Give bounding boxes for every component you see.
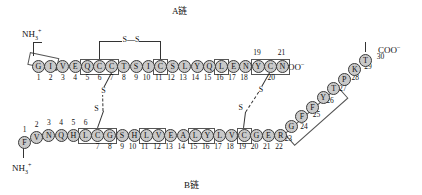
number-b1: 1 — [18, 125, 31, 134]
residue-b25: F — [306, 101, 319, 114]
ss-bridge-left — [100, 41, 122, 42]
residue-a3: V — [56, 60, 69, 73]
residue-b6: L — [79, 129, 92, 142]
number-a18: 18 — [238, 73, 251, 82]
residue-a8: T — [117, 60, 130, 73]
residue-a9: S — [130, 60, 143, 73]
nterm-a-line — [33, 42, 34, 56]
nterm-a-line-h — [34, 42, 42, 43]
chain-b-caption: B链 — [184, 178, 199, 191]
number-b15: 15 — [187, 142, 200, 151]
number-a3: 3 — [56, 73, 69, 82]
residue-b20: G — [250, 129, 263, 142]
number-b19: 19 — [236, 142, 249, 151]
residue-b5: H — [67, 129, 80, 142]
residue-a21: N — [276, 60, 289, 73]
number-a14: 14 — [189, 73, 202, 82]
residue-a12: S — [166, 60, 179, 73]
residue-a6: C — [93, 60, 106, 73]
ss-b7-up — [97, 111, 104, 128]
chain-a-n-terminus: NH3+ — [22, 28, 41, 41]
ss-a6-up — [99, 41, 100, 59]
chain-a-caption: A链 — [172, 4, 188, 17]
residue-b1: F — [18, 136, 31, 149]
number-b8: 8 — [103, 142, 116, 151]
number-b16: 16 — [199, 142, 212, 151]
disulfide-label-a6-a11: S—S — [123, 36, 140, 44]
number-a7: 7 — [105, 73, 118, 82]
number-a10: 10 — [140, 73, 153, 82]
residue-a15: Q — [203, 60, 216, 73]
sulfur-a20: S — [259, 86, 263, 94]
residue-a20: C — [264, 60, 277, 73]
number-b22: 22 — [272, 142, 285, 151]
residue-b3: N — [42, 129, 55, 142]
residue-a2: I — [44, 60, 57, 73]
number-a19: 19 — [251, 48, 264, 57]
cterm-b-line — [365, 42, 366, 52]
number-a17: 17 — [225, 73, 238, 82]
residue-b26: Y — [317, 91, 330, 104]
number-b7: 7 — [91, 142, 104, 151]
number-b2: 2 — [30, 120, 43, 129]
number-a16: 16 — [213, 73, 226, 82]
number-b20: 20 — [248, 142, 261, 151]
number-a20: 20 — [265, 73, 278, 82]
number-b18: 18 — [224, 142, 237, 151]
number-a2: 2 — [44, 73, 57, 82]
residue-a13: L — [178, 60, 191, 73]
number-b3: 3 — [42, 118, 55, 127]
residue-a17: E — [227, 60, 240, 73]
nterm-b-line — [23, 148, 24, 158]
insulin-structure-figure: A链 B链 NH3+ COO– NH3+ COO– GIVEQCCTSICSLY… — [0, 0, 422, 195]
residue-b15: L — [189, 129, 202, 142]
number-a13: 13 — [177, 73, 190, 82]
residue-b10: H — [128, 129, 141, 142]
number-b13: 13 — [163, 142, 176, 151]
residue-b2: V — [30, 131, 43, 144]
residue-b17: L — [213, 129, 226, 142]
number-b17: 17 — [211, 142, 224, 151]
number-a11: 11 — [152, 73, 165, 82]
number-b5: 5 — [67, 118, 80, 127]
number-b11: 11 — [138, 142, 151, 151]
number-a4: 4 — [69, 73, 82, 82]
residue-b16: Y — [201, 129, 214, 142]
residue-b19: C — [238, 129, 251, 142]
residue-a14: Y — [191, 60, 204, 73]
number-a12: 12 — [164, 73, 177, 82]
residue-a16: L — [215, 60, 228, 73]
number-b14: 14 — [175, 142, 188, 151]
number-a21: 21 — [275, 48, 288, 57]
sulfur-b7: S — [94, 105, 98, 113]
residue-b13: E — [164, 129, 177, 142]
residue-b11: L — [140, 129, 153, 142]
residue-b30: T — [359, 54, 372, 67]
residue-b28: P — [338, 73, 351, 86]
residue-b9: S — [116, 129, 129, 142]
residue-a10: I — [142, 60, 155, 73]
sulfur-b19: S — [239, 104, 243, 112]
ss-a11-up — [160, 41, 161, 59]
residue-a4: E — [69, 60, 82, 73]
number-b12: 12 — [150, 142, 163, 151]
number-a15: 15 — [201, 73, 214, 82]
residue-b21: E — [262, 129, 275, 142]
residue-a1: G — [32, 60, 45, 73]
number-b30: 30 — [374, 52, 387, 61]
residue-a11: C — [154, 60, 167, 73]
number-b21: 21 — [260, 142, 273, 151]
residue-b23: G — [285, 120, 298, 133]
number-b24: 24 — [297, 122, 310, 131]
number-b10: 10 — [126, 142, 139, 151]
number-a8: 8 — [117, 73, 130, 82]
residue-a19: Y — [252, 60, 265, 73]
residue-a5: Q — [81, 60, 94, 73]
number-a5: 5 — [81, 73, 94, 82]
residue-b4: Q — [55, 129, 68, 142]
residue-b14: A — [177, 129, 190, 142]
number-a1: 1 — [32, 73, 45, 82]
ss-b19-up — [243, 112, 246, 128]
sulfur-a7: S — [101, 87, 105, 95]
number-b4: 4 — [55, 118, 68, 127]
